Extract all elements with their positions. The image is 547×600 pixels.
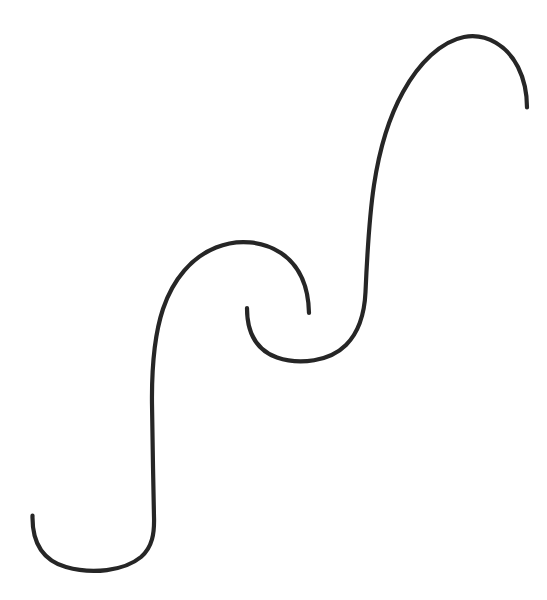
canvas-background <box>0 0 547 600</box>
drawing-canvas <box>0 0 547 600</box>
curve-svg <box>0 0 547 600</box>
